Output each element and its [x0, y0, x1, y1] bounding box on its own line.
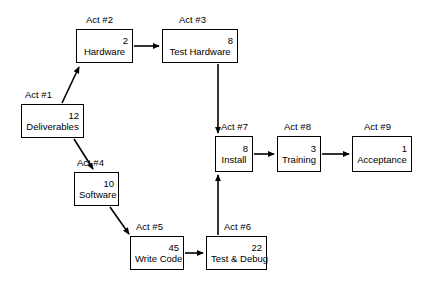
node-duration: 12	[26, 110, 79, 121]
node-hardware[interactable]: 2 Hardware	[76, 29, 133, 63]
node-label: Test & Debug	[211, 253, 262, 264]
node-duration: 45	[135, 242, 179, 253]
node-label: Write Code	[135, 253, 179, 264]
act-label-act9: Act #9	[364, 121, 391, 132]
node-duration: 8	[167, 35, 233, 46]
node-duration: 2	[81, 35, 128, 46]
node-label: Test Hardware	[167, 46, 233, 57]
node-duration: 22	[211, 242, 262, 253]
node-acceptance[interactable]: 1 Acceptance	[352, 136, 412, 172]
node-label: Training	[282, 154, 316, 165]
node-duration: 3	[282, 143, 316, 154]
act-label-act7: Act #7	[221, 121, 248, 132]
node-software[interactable]: 10 Software	[74, 172, 119, 206]
node-training[interactable]: 3 Training	[277, 136, 321, 172]
node-install[interactable]: 8 Install	[215, 136, 253, 172]
act-label-act3: Act #3	[179, 14, 206, 25]
act-label-act4: Act #4	[77, 157, 104, 168]
node-duration: 1	[357, 143, 407, 154]
act-label-act1: Act #1	[25, 89, 52, 100]
act-label-act2: Act #2	[86, 14, 113, 25]
node-test-and-debug[interactable]: 22 Test & Debug	[206, 236, 267, 270]
act-label-act6: Act #6	[224, 221, 251, 232]
node-label: Software	[79, 189, 114, 200]
edge-act4-act5	[110, 207, 129, 234]
node-label: Install	[220, 154, 248, 165]
node-duration: 10	[79, 178, 114, 189]
node-deliverables[interactable]: 12 Deliverables	[21, 104, 84, 138]
node-label: Deliverables	[26, 121, 79, 132]
node-write-code[interactable]: 45 Write Code	[130, 236, 184, 270]
node-duration: 8	[220, 143, 248, 154]
edge-act1-act2	[62, 67, 79, 103]
node-label: Acceptance	[357, 154, 407, 165]
node-label: Hardware	[81, 46, 128, 57]
node-test-hardware[interactable]: 8 Test Hardware	[162, 29, 238, 63]
act-label-act5: Act #5	[136, 221, 163, 232]
network-diagram: Act #1 12 Deliverables Act #2 2 Hardware…	[0, 0, 421, 284]
act-label-act8: Act #8	[284, 121, 311, 132]
